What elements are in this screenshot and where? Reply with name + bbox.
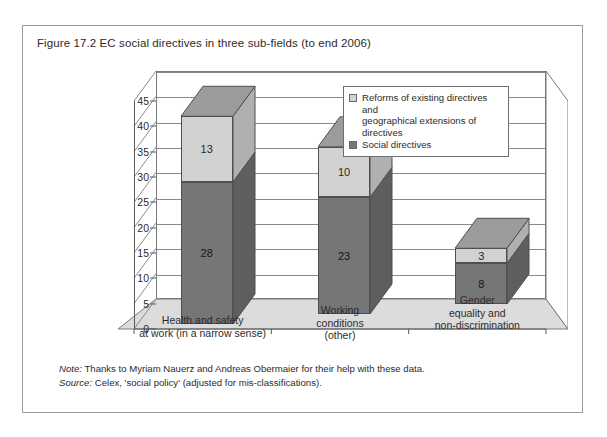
x-axis-category-label: Health and safetyat work (in a narrow se… bbox=[123, 314, 283, 339]
x-axis-label-line: Working bbox=[260, 304, 420, 317]
chart-area: 051015202530354045 1328102338 Health and… bbox=[108, 61, 568, 351]
x-axis-label-line: equality and bbox=[397, 307, 557, 320]
source-label: Source: bbox=[59, 377, 92, 388]
source-text: Celex, 'social policy' (adjusted for mis… bbox=[92, 377, 322, 388]
figure-title: Figure 17.2 EC social directives in thre… bbox=[37, 37, 371, 49]
x-axis-label-line: Gender bbox=[397, 294, 557, 307]
x-axis-label-line: Health and safety bbox=[123, 314, 283, 327]
x-axis-label-line: (other) bbox=[260, 329, 420, 342]
x-axis-category-label: Genderequality andnon-discrimination bbox=[397, 294, 557, 332]
legend-item[interactable]: Reforms of existing directives andgeogra… bbox=[349, 92, 503, 138]
legend-item[interactable]: Social directives bbox=[349, 139, 503, 151]
legend-swatch-icon bbox=[349, 94, 357, 102]
note-text: Thanks to Myriam Nauerz and Andreas Ober… bbox=[82, 363, 425, 374]
note-label: Note: bbox=[59, 363, 82, 374]
x-axis-label-line: conditions bbox=[260, 317, 420, 330]
source-line: Source: Celex, 'social policy' (adjusted… bbox=[59, 376, 559, 390]
x-axis-category-label: Workingconditions(other) bbox=[260, 304, 420, 342]
figure-page: Figure 17.2 EC social directives in thre… bbox=[0, 0, 607, 437]
legend-label-line: Social directives bbox=[362, 139, 431, 151]
bar-segment-reforms: 13 bbox=[181, 116, 233, 182]
bar-segment-reforms: 3 bbox=[455, 248, 507, 263]
bar-segment-social: 28 bbox=[181, 182, 233, 324]
figure-container: Figure 17.2 EC social directives in thre… bbox=[22, 25, 583, 413]
note-line: Note: Thanks to Myriam Nauerz and Andrea… bbox=[59, 362, 559, 376]
legend-label: Reforms of existing directives andgeogra… bbox=[362, 92, 503, 138]
legend-label-line: Reforms of existing directives and bbox=[362, 92, 503, 115]
figure-notes: Note: Thanks to Myriam Nauerz and Andrea… bbox=[59, 362, 559, 390]
legend-label: Social directives bbox=[362, 139, 431, 151]
legend-swatch-icon bbox=[349, 141, 357, 149]
chart-legend: Reforms of existing directives andgeogra… bbox=[343, 86, 509, 157]
legend-label-line: geographical extensions of directives bbox=[362, 115, 503, 138]
x-axis-label-line: non-discrimination bbox=[397, 319, 557, 332]
x-axis-label-line: at work (in a narrow sense) bbox=[123, 327, 283, 340]
bar-segment-social: 23 bbox=[318, 197, 370, 314]
